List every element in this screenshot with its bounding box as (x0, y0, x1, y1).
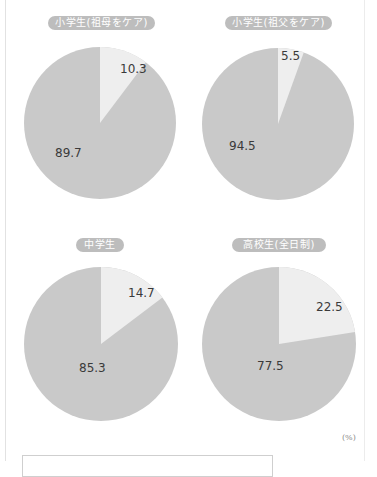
slice-label-majority: 77.5 (257, 359, 284, 373)
unit-label: (%) (342, 433, 356, 442)
note-box (22, 455, 273, 477)
slice-label-minority: 22.5 (316, 300, 343, 314)
